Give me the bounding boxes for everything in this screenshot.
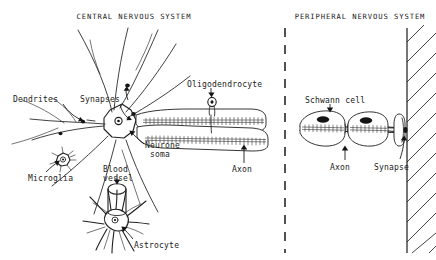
label-synapse-pns: Synapse (374, 163, 409, 172)
label-astrocyte: Astrocyte (134, 241, 179, 250)
label-axon-cns: Axon (232, 165, 252, 174)
label-axon-pns: Axon (330, 163, 350, 172)
nervous-system-diagram: CENTRAL NERVOUS SYSTEM PERIPHERAL NERVOU… (0, 0, 436, 260)
leader-synapses (120, 86, 132, 120)
heading-peripheral-nervous-system: PERIPHERAL NERVOUS SYSTEM (295, 12, 426, 21)
label-oligodendrocyte: Oligodendrocyte (187, 80, 262, 89)
leader-microglia (46, 161, 60, 172)
schwann-cell-2 (348, 112, 388, 146)
label-neurone-soma-line1: Neurone (145, 141, 180, 150)
muscle-hatch-lines (407, 25, 436, 253)
label-blood-vessel-line1: Blood (103, 165, 128, 174)
diagram-canvas: CENTRAL NERVOUS SYSTEM PERIPHERAL NERVOU… (0, 0, 436, 260)
leader-axon-pns (342, 146, 348, 160)
label-blood-vessel-line2: vessel (103, 174, 133, 183)
pns-nerve-fibre (300, 25, 436, 253)
label-microglia: Microglia (28, 174, 73, 183)
label-neurone-soma-line2: soma (150, 150, 170, 159)
muscle-boundary (407, 25, 436, 253)
leader-oligodendrocyte (208, 88, 214, 97)
synaptic-boutons (59, 83, 136, 135)
schwann-cell-1 (300, 111, 345, 146)
leader-dendrites (63, 104, 84, 121)
heading-central-nervous-system: CENTRAL NERVOUS SYSTEM (77, 12, 192, 21)
label-dendrites: Dendrites (13, 95, 58, 104)
label-schwann-cell: Schwann cell (305, 96, 365, 105)
microglia-cell (50, 147, 76, 172)
label-synapses: Synapses (80, 95, 120, 104)
motor-end-plate (388, 114, 408, 146)
